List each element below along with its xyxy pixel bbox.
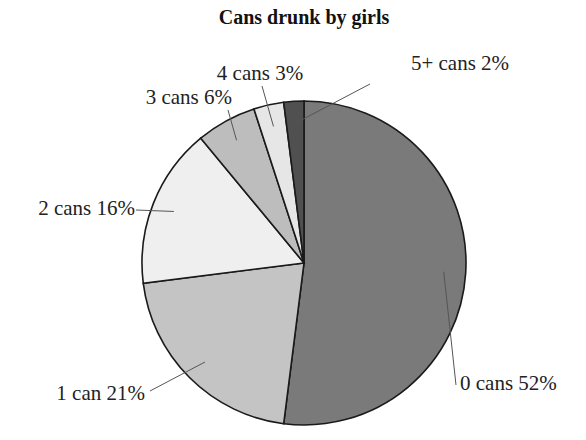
slice-label: 5+ cans 2% — [411, 51, 509, 75]
pie-slices — [142, 101, 466, 425]
slice-label: 1 can 21% — [56, 381, 145, 405]
pie-slice-1-can — [143, 263, 304, 424]
pie-chart: Cans drunk by girls 0 cans 52%1 can 21%2… — [0, 0, 586, 440]
pie-slice-0-cans — [284, 101, 466, 425]
chart-title: Cans drunk by girls — [219, 6, 390, 29]
slice-label: 2 cans 16% — [38, 196, 135, 220]
slice-label: 3 cans 6% — [146, 85, 232, 109]
slice-label: 0 cans 52% — [460, 371, 557, 395]
slice-label: 4 cans 3% — [217, 61, 303, 85]
